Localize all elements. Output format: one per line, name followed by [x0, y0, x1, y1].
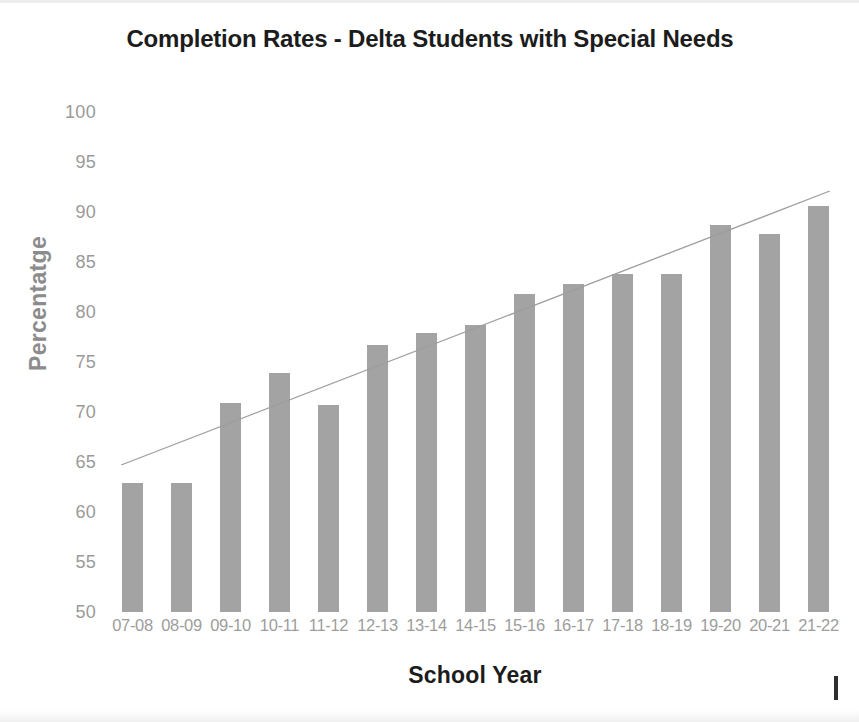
- y-axis-tick-label: 80: [75, 302, 96, 323]
- y-axis-tick-label: 55: [75, 552, 96, 573]
- plot-area: 10095908580757065605550: [108, 112, 843, 612]
- bar: [171, 483, 192, 612]
- scan-edge-bottom: [0, 710, 859, 722]
- x-axis-tick-label: 07-08: [112, 616, 153, 635]
- y-axis-tick-label: 75: [75, 352, 96, 373]
- y-axis-tick-label: 65: [75, 452, 96, 473]
- bars-layer: [108, 112, 843, 612]
- y-axis-tick-label: 100: [65, 102, 96, 123]
- bar: [122, 483, 143, 612]
- bar: [220, 403, 241, 612]
- scan-mark-icon: [834, 676, 838, 700]
- bar: [808, 206, 829, 612]
- bar: [318, 405, 339, 612]
- y-axis-tick-label: 70: [75, 402, 96, 423]
- x-axis-tick-label: 17-18: [602, 616, 643, 635]
- chart-container: Completion Rates - Delta Students with S…: [0, 0, 859, 722]
- x-axis-tick-label: 10-11: [260, 616, 299, 635]
- y-axis-tick-label: 90: [75, 202, 96, 223]
- x-axis-title: School Year: [130, 662, 820, 689]
- x-axis-tick-labels: 07-0808-0909-1010-1111-1212-1313-1414-15…: [108, 616, 843, 642]
- x-axis-tick-label: 16-17: [553, 616, 594, 635]
- x-axis-tick-label: 13-14: [406, 616, 447, 635]
- scan-edge-top: [0, 0, 859, 3]
- bar: [465, 325, 486, 612]
- bar: [269, 373, 290, 612]
- bar: [416, 333, 437, 612]
- x-axis-tick-label: 19-20: [700, 616, 741, 635]
- bar: [661, 274, 682, 612]
- y-axis-title: Percentatge: [25, 204, 52, 404]
- y-axis-tick-label: 50: [75, 602, 96, 623]
- bar: [514, 294, 535, 612]
- bar: [612, 274, 633, 612]
- x-axis-tick-label: 18-19: [651, 616, 692, 635]
- x-axis-tick-label: 14-15: [455, 616, 496, 635]
- bar: [710, 225, 731, 612]
- chart-title: Completion Rates - Delta Students with S…: [120, 24, 740, 55]
- x-axis-tick-label: 15-16: [504, 616, 545, 635]
- x-axis-tick-label: 20-21: [749, 616, 790, 635]
- bar: [563, 284, 584, 612]
- x-axis-tick-label: 12-13: [357, 616, 398, 635]
- y-axis-tick-label: 60: [75, 502, 96, 523]
- y-axis-tick-label: 85: [75, 252, 96, 273]
- x-axis-tick-label: 11-12: [309, 616, 348, 635]
- bar: [759, 234, 780, 612]
- x-axis-tick-label: 21-22: [798, 616, 839, 635]
- x-axis-tick-label: 08-09: [161, 616, 202, 635]
- y-axis-tick-label: 95: [75, 152, 96, 173]
- bar: [367, 345, 388, 612]
- x-axis-tick-label: 09-10: [210, 616, 251, 635]
